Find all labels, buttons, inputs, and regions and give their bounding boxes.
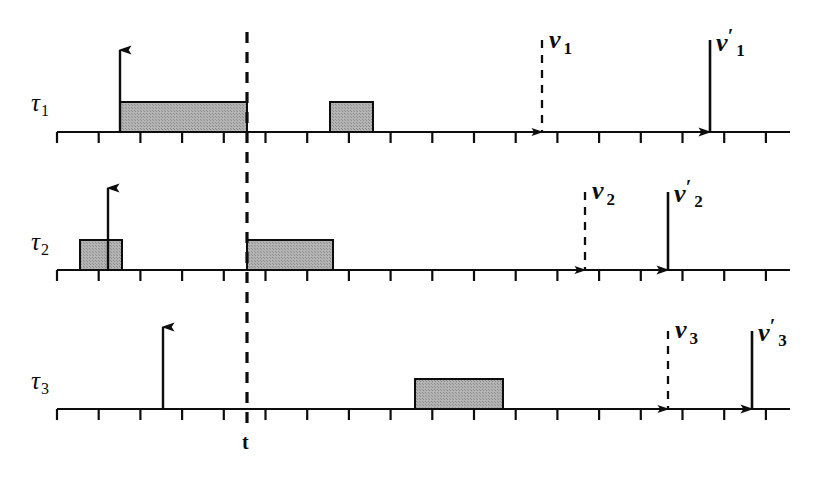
interval-box-rect [80, 240, 122, 270]
deadline-arrows-layer [542, 40, 752, 409]
interval-box [415, 379, 503, 409]
interval-box [120, 102, 247, 132]
deadline-label: ν2 [592, 176, 615, 210]
axis-label-tau3: τ3 [31, 367, 49, 398]
interval-box-rect [330, 102, 373, 132]
axis-label-tau1: τ1 [31, 89, 49, 120]
interval-box-rect [247, 240, 333, 270]
nu-subscript: 3 [687, 329, 699, 348]
deadline-label: ν′1 [716, 25, 745, 61]
interval-box [80, 240, 122, 270]
tau-subscript: 3 [40, 380, 49, 397]
nu-symbol: ν [674, 179, 686, 208]
nu-subscript: 2 [691, 192, 703, 211]
nu-symbol: ν [549, 25, 561, 54]
deadline-label: ν3 [675, 315, 698, 349]
nu-symbol: ν [592, 176, 604, 205]
nu-subscript: 1 [733, 41, 745, 60]
deadline-label: ν1 [549, 25, 572, 59]
diagram-canvas [0, 0, 830, 482]
nu-subscript: 2 [604, 190, 616, 209]
tau-symbol: τ [31, 89, 40, 116]
axis-tau3 [57, 409, 790, 420]
tau-subscript: 2 [40, 241, 49, 258]
interval-box [247, 240, 333, 270]
deadline-label: ν′2 [674, 176, 703, 212]
nu-subscript: 1 [561, 39, 573, 58]
interval-box-rect [120, 102, 247, 132]
timing-diagram-figure: tν1ν′1ν2ν′2ν3ν′3τ1τ2τ3 [0, 0, 830, 482]
interval-boxes-layer [80, 102, 503, 409]
nu-symbol: ν [675, 315, 687, 344]
tau-symbol: τ [31, 228, 40, 255]
nu-symbol: ν [758, 318, 770, 347]
reference-line-label-t: t [242, 431, 249, 454]
nu-symbol: ν [716, 28, 728, 57]
axis-tau2 [57, 270, 790, 281]
interval-box [330, 102, 373, 132]
tau-subscript: 1 [40, 102, 49, 119]
deadline-label: ν′3 [758, 315, 787, 351]
axis-tau1 [57, 132, 790, 143]
tau-symbol: τ [31, 367, 40, 394]
axis-label-tau2: τ2 [31, 228, 49, 259]
nu-subscript: 3 [775, 331, 787, 350]
interval-box-rect [415, 379, 503, 409]
